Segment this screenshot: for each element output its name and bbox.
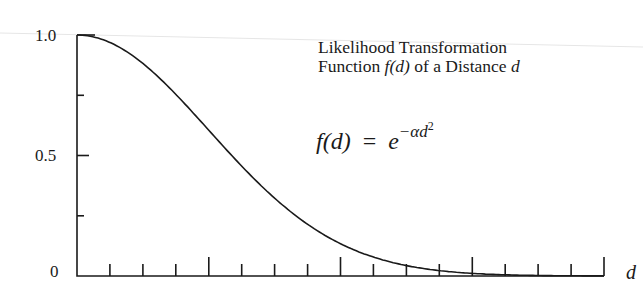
y-tick-label-0: 0 — [50, 263, 59, 280]
formula-base: e — [388, 128, 399, 154]
formula: f(d) = e−αd2 — [316, 128, 434, 155]
formula-exponent: −αd2 — [399, 122, 434, 141]
title-line-1: Likelihood Transformation — [318, 38, 520, 57]
y-tick-label-half: 0.5 — [35, 147, 56, 164]
formula-lhs: f(d) — [316, 128, 351, 154]
x-axis-label: d — [626, 262, 636, 282]
title-line-2: Function f(d) of a Distance d — [318, 57, 520, 76]
y-tick-label-1: 1.0 — [35, 27, 56, 44]
chart-title: Likelihood Transformation Function f(d) … — [318, 38, 520, 76]
formula-equals: = — [363, 128, 377, 154]
